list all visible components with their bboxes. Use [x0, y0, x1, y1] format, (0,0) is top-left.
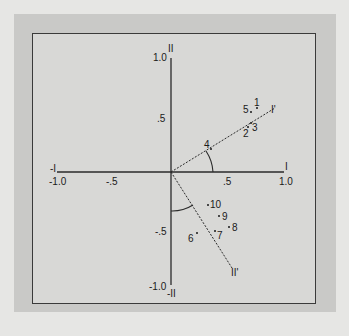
axis-label-i-prime: I' [271, 104, 276, 115]
data-point-9: 9 [218, 211, 228, 222]
svg-text:10: 10 [210, 199, 222, 210]
svg-text:4: 4 [204, 139, 210, 150]
svg-text:9: 9 [222, 211, 228, 222]
x-tick-neg-05: -.5 [106, 176, 118, 187]
data-point-7: 7 [214, 230, 223, 241]
factor-plot: II -II I -I I' II' -1.0 -.5 .5 1.0 1.0 .… [0, 0, 349, 336]
data-point-4: 4 [204, 139, 212, 150]
data-point-5: 5 [243, 104, 252, 115]
svg-text:6: 6 [188, 233, 194, 244]
svg-text:2: 2 [243, 128, 249, 139]
axis-label-i: I [285, 161, 288, 172]
angle-arc-ii [171, 205, 193, 211]
svg-text:1: 1 [254, 97, 260, 108]
y-tick-neg-05: -.5 [155, 226, 167, 237]
data-point-2: 2 [243, 126, 249, 139]
y-tick-05: .5 [157, 113, 166, 124]
angle-arc-i [206, 151, 213, 172]
svg-text:5: 5 [243, 104, 249, 115]
data-point-8: 8 [228, 222, 238, 233]
x-tick-05: .5 [223, 176, 232, 187]
y-tick-neg-1: -1.0 [149, 281, 167, 292]
axis-label-ii-prime: II' [231, 267, 239, 278]
rotated-axis-i-prime [171, 108, 275, 172]
svg-text:3: 3 [252, 122, 258, 133]
axis-label-neg-ii: -II [167, 288, 176, 299]
svg-text:8: 8 [232, 222, 238, 233]
axis-label-neg-i: -I [50, 163, 56, 174]
svg-text:7: 7 [217, 230, 223, 241]
data-point-1: 1 [254, 97, 260, 109]
axis-label-ii: II [168, 43, 174, 54]
x-tick-1: 1.0 [279, 176, 293, 187]
x-tick-neg-1: -1.0 [49, 176, 67, 187]
data-point-3: 3 [250, 122, 258, 133]
y-tick-1: 1.0 [153, 52, 167, 63]
data-point-10: 10 [207, 199, 222, 210]
data-point-6: 6 [188, 232, 198, 244]
